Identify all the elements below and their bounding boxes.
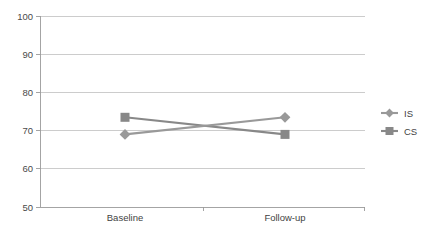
- y-tick-label-60: 60: [22, 163, 33, 174]
- line-chart: 100 90 80 70 60 50 Baseline Follow-up: [0, 0, 434, 238]
- legend-label-is: IS: [404, 108, 413, 119]
- legend-marker-cs-square-icon: [386, 127, 394, 135]
- x-category-label-baseline: Baseline: [107, 212, 143, 223]
- chart-background: [0, 0, 434, 238]
- y-tick-label-80: 80: [22, 87, 33, 98]
- y-tick-label-100: 100: [17, 11, 33, 22]
- series-cs-marker-baseline: [121, 113, 130, 122]
- y-tick-label-90: 90: [22, 49, 33, 60]
- legend-label-cs: CS: [404, 126, 417, 137]
- chart-canvas: 100 90 80 70 60 50 Baseline Follow-up: [0, 0, 434, 238]
- x-category-label-followup: Follow-up: [264, 212, 305, 223]
- y-tick-label-70: 70: [22, 125, 33, 136]
- series-cs-marker-followup: [281, 130, 290, 139]
- y-tick-label-50: 50: [22, 202, 33, 213]
